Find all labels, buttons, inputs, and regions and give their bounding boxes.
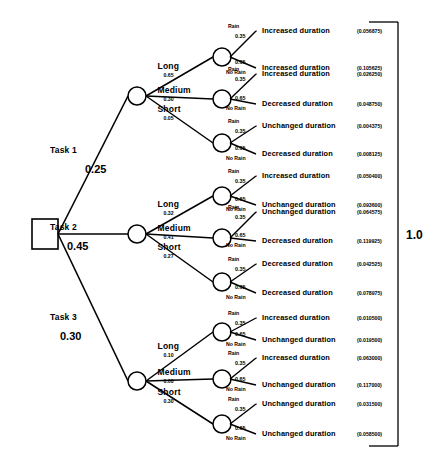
decision-tree-diagram: Task 10.25Long0.65Rain0.350.65No RainInc… xyxy=(0,0,436,468)
duration-label-prob: 0.65 xyxy=(164,72,174,78)
task-label-name: Task 3 xyxy=(50,312,77,322)
duration-label-name: Short xyxy=(158,104,181,114)
duration-label-name: Long xyxy=(158,61,180,71)
no-rain-branch-label: No Rain xyxy=(226,435,246,441)
outcome-probability: (0.064575) xyxy=(357,209,382,215)
rain-branch-prob: 0.35 xyxy=(235,128,246,134)
no-rain-branch-label: No Rain xyxy=(226,386,246,392)
rain-branch-prob: 0.35 xyxy=(235,320,246,326)
outcome-label: Unchanged duration xyxy=(262,207,336,216)
outcome-label: Decreased duration xyxy=(262,149,333,158)
rain-branch-label: Rain xyxy=(228,396,239,402)
outcome-label: Unchanged duration xyxy=(262,429,336,438)
no-rain-branch-prob: 0.65 xyxy=(235,425,246,431)
task-label-prob: 0.45 xyxy=(67,240,88,252)
duration-label-prob: 0.41 xyxy=(164,234,174,240)
rain-branch-prob: 0.35 xyxy=(235,406,246,412)
duration-label-name: Medium xyxy=(158,223,191,233)
rain-branch-prob: 0.35 xyxy=(235,178,246,184)
outcome-probability: (0.004375) xyxy=(357,123,382,129)
no-rain-branch-prob: 0.65 xyxy=(235,145,246,151)
outcome-probability: (0.019500) xyxy=(357,337,382,343)
outcome-probability: (0.058500) xyxy=(357,431,382,437)
duration-label-name: Short xyxy=(158,387,181,397)
outcome-probability: (0.056875) xyxy=(357,28,382,34)
duration-label-prob: 0.30 xyxy=(164,398,174,404)
outcome-probability: (0.048750) xyxy=(357,101,382,107)
no-rain-branch-label: No Rain xyxy=(226,341,246,347)
rain-branch-label: Rain xyxy=(228,66,239,72)
no-rain-branch-label: No Rain xyxy=(226,155,246,161)
outcome-probability: (0.078975) xyxy=(357,290,382,296)
task-label-prob: 0.30 xyxy=(60,330,81,342)
no-rain-branch-label: No Rain xyxy=(226,105,246,111)
outcome-label: Decreased duration xyxy=(262,99,333,108)
task-label-prob: 0.25 xyxy=(85,163,106,175)
outcome-probability: (0.031500) xyxy=(357,401,382,407)
no-rain-branch-prob: 0.65 xyxy=(235,331,246,337)
outcome-label: Unchanged duration xyxy=(262,335,336,344)
no-rain-branch-label: No Rain xyxy=(226,294,246,300)
rain-branch-label: Rain xyxy=(228,256,239,262)
outcome-label: Decreased duration xyxy=(262,236,333,245)
no-rain-branch-prob: 0.65 xyxy=(235,284,246,290)
duration-label-name: Medium xyxy=(158,85,191,95)
duration-label-name: Medium xyxy=(158,367,191,377)
rain-branch-prob: 0.35 xyxy=(235,214,246,220)
outcome-label: Increased duration xyxy=(262,171,330,180)
no-rain-branch-label: No Rain xyxy=(226,242,246,248)
outcome-probability: (0.026250) xyxy=(357,71,382,77)
rain-branch-label: Rain xyxy=(228,204,239,210)
rain-branch-label: Rain xyxy=(228,118,239,124)
no-rain-branch-prob: 0.65 xyxy=(235,95,246,101)
duration-label-prob: 0.05 xyxy=(164,115,174,121)
outcome-probability: (0.050400) xyxy=(357,173,382,179)
outcome-probability: (0.093600) xyxy=(357,202,382,208)
outcome-label: Increased duration xyxy=(262,26,330,35)
task-label-name: Task 1 xyxy=(50,145,77,155)
outcome-probability: (0.119925) xyxy=(357,238,382,244)
outcome-probability: (0.042525) xyxy=(357,261,382,267)
duration-label-name: Long xyxy=(158,341,180,351)
outcome-label: Unchanged duration xyxy=(262,399,336,408)
rain-branch-label: Rain xyxy=(228,23,239,29)
outcome-label: Decreased duration xyxy=(262,259,333,268)
rain-branch-prob: 0.35 xyxy=(235,360,246,366)
rain-branch-prob: 0.35 xyxy=(235,33,246,39)
duration-label-prob: 0.27 xyxy=(164,253,174,259)
duration-label-prob: 0.32 xyxy=(164,210,174,216)
outcome-probability: (0.063000) xyxy=(357,355,382,361)
rain-branch-label: Rain xyxy=(228,168,239,174)
no-rain-branch-prob: 0.65 xyxy=(235,59,246,65)
task-label-name: Task 2 xyxy=(50,222,77,232)
duration-label-prob: 0.30 xyxy=(164,96,174,102)
outcome-label: Unchanged duration xyxy=(262,380,336,389)
duration-label-prob: 0.60 xyxy=(164,378,174,384)
rain-branch-prob: 0.35 xyxy=(235,266,246,272)
duration-label-prob: 0.10 xyxy=(164,352,174,358)
outcome-label: Unchanged duration xyxy=(262,121,336,130)
outcome-probability: (0.010500) xyxy=(357,315,382,321)
outcome-probability: (0.117000) xyxy=(357,382,382,388)
outcome-label: Increased duration xyxy=(262,313,330,322)
outcome-label: Increased duration xyxy=(262,69,330,78)
outcome-label: Increased duration xyxy=(262,353,330,362)
total-probability-label: 1.0 xyxy=(406,228,423,242)
duration-label-name: Long xyxy=(158,199,180,209)
rain-branch-label: Rain xyxy=(228,350,239,356)
duration-label-name: Short xyxy=(158,242,181,252)
no-rain-branch-prob: 0.65 xyxy=(235,376,246,382)
rain-branch-label: Rain xyxy=(228,310,239,316)
outcome-label: Decreased duration xyxy=(262,288,333,297)
outcome-probability: (0.008125) xyxy=(357,151,382,157)
rain-branch-prob: 0.35 xyxy=(235,76,246,82)
no-rain-branch-prob: 0.65 xyxy=(235,196,246,202)
no-rain-branch-prob: 0.65 xyxy=(235,232,246,238)
